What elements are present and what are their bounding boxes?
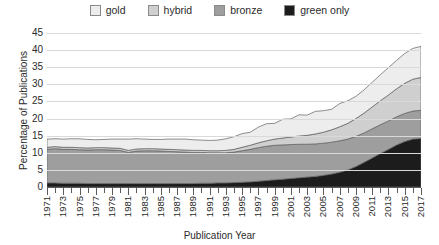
legend-label: hybrid <box>164 5 193 16</box>
x-axis-tick-label: 2003 <box>302 196 312 217</box>
grid-line <box>47 33 421 34</box>
x-axis-ticks <box>47 188 421 196</box>
x-axis-tick <box>210 188 211 195</box>
x-axis-tick-label: 2013 <box>383 196 393 217</box>
grid-line <box>47 119 421 120</box>
x-axis-tick <box>71 188 72 193</box>
x-axis-tick <box>120 188 121 193</box>
y-axis-title: Percentage of Publications <box>18 26 29 196</box>
x-axis-tick <box>388 188 389 195</box>
y-axis-tick-label: 5 <box>37 165 43 175</box>
x-axis-tick-label: 2015 <box>400 196 410 217</box>
x-axis-tick <box>47 188 48 195</box>
chart-legend: goldhybridbronzegreen only <box>0 5 439 16</box>
x-axis-tick-label: 1981 <box>123 196 133 217</box>
x-axis-tick <box>88 188 89 193</box>
legend-label: gold <box>106 5 126 16</box>
x-axis-tick-label: 1973 <box>58 196 68 217</box>
x-axis-tick-label: 1989 <box>188 196 198 217</box>
legend-item-bronze: bronze <box>214 5 262 16</box>
legend-item-hybrid: hybrid <box>148 5 193 16</box>
x-axis-tick-label: 1993 <box>221 196 231 217</box>
x-axis-tick <box>242 188 243 195</box>
y-axis-tick-label: 35 <box>32 62 43 72</box>
x-axis-tick <box>55 188 56 193</box>
y-axis-tick-label: 0 <box>37 182 43 192</box>
x-axis-tick <box>177 188 178 195</box>
x-axis-tick-labels: 1971197319751977197919811983198519871989… <box>47 196 421 228</box>
legend-swatch-icon <box>90 5 101 16</box>
x-axis-tick <box>413 188 414 193</box>
x-axis-tick <box>267 188 268 193</box>
x-axis-tick <box>397 188 398 193</box>
chart-container: goldhybridbronzegreen only Percentage of… <box>0 0 439 245</box>
x-axis-tick <box>218 188 219 193</box>
x-axis-tick <box>201 188 202 193</box>
x-axis-tick <box>185 188 186 193</box>
y-axis-tick-label: 15 <box>32 131 43 141</box>
legend-item-gold: gold <box>90 5 126 16</box>
x-axis-tick-label: 1983 <box>140 196 150 217</box>
x-axis-tick-label: 2007 <box>335 196 345 217</box>
x-axis-tick <box>193 188 194 195</box>
x-axis-tick <box>364 188 365 193</box>
legend-swatch-icon <box>284 5 295 16</box>
grid-line <box>47 136 421 137</box>
stacked-area-svg <box>47 33 421 187</box>
x-axis-tick-label: 1987 <box>172 196 182 217</box>
x-axis-tick <box>153 188 154 193</box>
x-axis-tick <box>421 188 422 195</box>
x-axis-tick <box>275 188 276 195</box>
grid-line <box>47 170 421 171</box>
x-axis-tick <box>112 188 113 195</box>
x-axis-tick <box>405 188 406 195</box>
x-axis-tick-label: 1971 <box>42 196 52 217</box>
x-axis-tick-label: 2011 <box>367 196 377 216</box>
x-axis-tick-label: 1991 <box>205 196 215 217</box>
x-axis-tick <box>63 188 64 195</box>
y-axis-tick-label: 10 <box>32 148 43 158</box>
grid-line <box>47 67 421 68</box>
x-axis-tick <box>356 188 357 195</box>
legend-label: green only <box>300 5 349 16</box>
x-axis-tick-label: 1979 <box>107 196 117 217</box>
y-axis-tick-label: 30 <box>32 79 43 89</box>
grid-line <box>47 153 421 154</box>
x-axis-tick-label: 1999 <box>270 196 280 217</box>
legend-swatch-icon <box>214 5 225 16</box>
x-axis-tick <box>145 188 146 195</box>
y-axis-tick-label: 45 <box>32 28 43 38</box>
x-axis-tick <box>250 188 251 193</box>
x-axis-tick-label: 1997 <box>253 196 263 217</box>
x-axis-tick <box>307 188 308 195</box>
grid-line <box>47 50 421 51</box>
x-axis-tick-label: 1977 <box>91 196 101 217</box>
x-axis-tick <box>80 188 81 195</box>
x-axis-tick <box>291 188 292 195</box>
x-axis-tick <box>104 188 105 193</box>
grid-line <box>47 101 421 102</box>
x-axis-tick <box>332 188 333 193</box>
x-axis-tick <box>226 188 227 195</box>
x-axis-tick <box>323 188 324 195</box>
x-axis-tick-label: 1995 <box>237 196 247 217</box>
x-axis-tick-label: 1975 <box>75 196 85 217</box>
x-axis-tick <box>299 188 300 193</box>
plot-area: 051015202530354045 <box>47 33 421 187</box>
legend-item-green-only: green only <box>284 5 349 16</box>
x-axis-tick <box>315 188 316 193</box>
legend-swatch-icon <box>148 5 159 16</box>
x-axis-tick <box>234 188 235 193</box>
y-axis-tick-label: 25 <box>32 96 43 106</box>
x-axis-tick <box>340 188 341 195</box>
x-axis-tick-label: 2001 <box>286 196 296 217</box>
x-axis-tick-label: 1985 <box>156 196 166 217</box>
x-axis-tick <box>348 188 349 193</box>
x-axis-tick <box>128 188 129 195</box>
x-axis-tick <box>372 188 373 195</box>
x-axis-tick <box>169 188 170 193</box>
x-axis-title: Publication Year <box>0 230 439 241</box>
y-axis-tick-label: 20 <box>32 114 43 124</box>
x-axis-tick <box>258 188 259 195</box>
x-axis-tick-label: 2017 <box>416 196 426 217</box>
